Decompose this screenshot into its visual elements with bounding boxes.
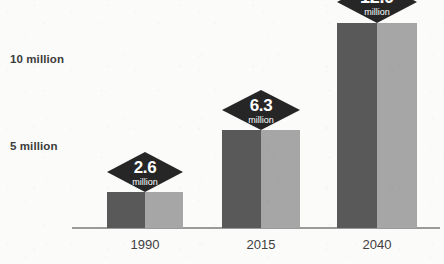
bar-top-face-2015 [222,110,300,130]
bar-column-2015: 6.3 million [222,110,300,228]
bar-top-face-2040 [337,2,417,23]
bar-column-2040: 12.9 million [337,2,417,228]
x-axis-label-2015: 2015 [222,237,300,252]
bar-column-1990: 2.6 million [107,172,183,228]
bar-right-face-2040 [377,23,417,228]
bar-left-face-1990 [107,192,145,228]
x-axis-label-1990: 1990 [107,237,183,252]
bar-body-2040 [337,23,417,228]
bar-right-face-1990 [145,192,183,228]
bar-chart: 10 million 5 million 2.6 million [0,0,444,264]
x-axis-label-2040: 2040 [337,237,417,252]
bar-body-1990 [107,192,183,228]
y-axis-label-10-million: 10 million [10,53,64,65]
bar-body-2015 [222,130,300,228]
bar-top-face-1990 [107,172,183,192]
bar-left-face-2040 [337,23,377,228]
bar-left-face-2015 [222,130,261,228]
y-axis-label-5-million: 5 million [10,140,58,152]
bar-right-face-2015 [261,130,300,228]
